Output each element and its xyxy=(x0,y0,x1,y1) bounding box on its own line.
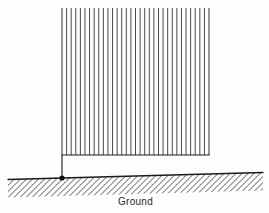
diagram-svg xyxy=(0,0,269,213)
ground-label: Ground xyxy=(1,196,269,207)
pin-support-joint xyxy=(59,175,64,180)
wall-hatch-lines xyxy=(62,8,209,155)
figure-canvas: Ground xyxy=(0,0,269,213)
